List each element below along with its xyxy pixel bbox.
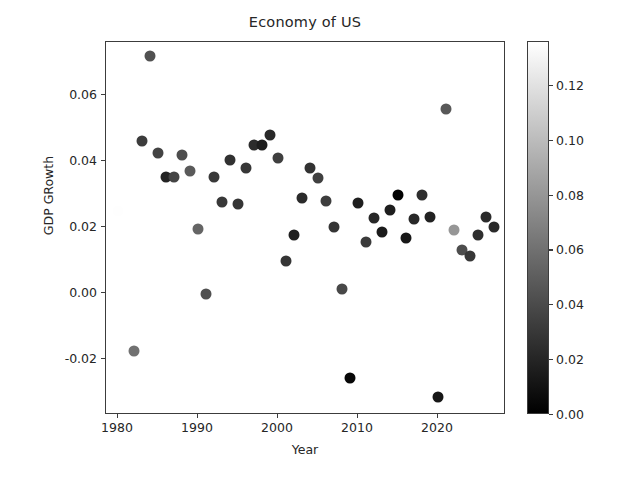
scatter-point [481,211,492,222]
x-axis-tick-label: 2010 [341,420,373,435]
colorbar-gradient [527,41,549,414]
x-axis-tick-mark [357,414,358,418]
scatter-point [425,212,436,223]
x-axis-tick-label: 1980 [101,420,133,435]
scatter-point [193,223,204,234]
scatter-point [321,195,332,206]
x-axis-tick-mark [437,414,438,418]
scatter-point [473,230,484,241]
colorbar-tick-mark [549,359,553,360]
x-axis-tick-mark [197,414,198,418]
scatter-point [113,206,124,217]
colorbar-tick-label: 0.02 [556,352,584,367]
scatter-point [353,198,364,209]
y-axis-tick-mark [101,160,105,161]
colorbar-tick-label: 0.04 [556,297,584,312]
scatter-point [489,222,500,233]
scatter-point [385,204,396,215]
scatter-point [201,288,212,299]
x-axis-tick-mark [117,414,118,418]
x-axis-label: Year [105,442,505,457]
scatter-point [129,346,140,357]
y-axis-tick-mark [101,94,105,95]
scatter-point [361,236,372,247]
colorbar-tick-mark [549,414,553,415]
scatter-point [209,171,220,182]
colorbar-tick-label: 0.06 [556,242,584,257]
scatter-point [393,190,404,201]
scatter-point [257,139,268,150]
colorbar-tick-mark [549,304,553,305]
colorbar-tick-mark [549,195,553,196]
scatter-point [369,212,380,223]
scatter-point [465,251,476,262]
scatter-point [401,232,412,243]
colorbar-tick-mark [549,140,553,141]
scatter-point [417,190,428,201]
x-axis-tick-label: 2000 [261,420,293,435]
y-axis-tick-mark [101,358,105,359]
scatter-point [233,199,244,210]
scatter-point [273,153,284,164]
colorbar: 0.120.100.080.060.040.020.00 [527,41,549,414]
y-axis-tick-mark [101,292,105,293]
colorbar-tick-mark [549,85,553,86]
scatter-point [185,166,196,177]
scatter-point [217,197,228,208]
scatter-point [225,154,236,165]
y-axis-tick-mark [101,226,105,227]
scatter-point [345,373,356,384]
scatter-point [449,225,460,236]
scatter-point [377,227,388,238]
colorbar-tick-mark [549,249,553,250]
y-axis-tick-label: 0.04 [69,152,97,167]
scatter-point [297,193,308,204]
scatter-point [289,230,300,241]
scatter-point [177,149,188,160]
scatter-point [145,50,156,61]
colorbar-tick-label: 0.10 [556,132,584,147]
scatter-point [329,221,340,232]
scatter-plot-area [105,41,505,414]
scatter-point [153,148,164,159]
scatter-point [409,213,420,224]
y-axis-tick-label: -0.02 [65,350,97,365]
y-axis-tick-label: 0.02 [69,218,97,233]
x-axis-tick-label: 2020 [421,420,453,435]
colorbar-tick-label: 0.00 [556,407,584,422]
scatter-point [313,172,324,183]
scatter-point [265,129,276,140]
figure-canvas: Economy of US GDP GRowth 0.060.040.020.0… [0,0,622,479]
scatter-point [281,255,292,266]
scatter-point [137,136,148,147]
y-axis-tick-label: 0.06 [69,86,97,101]
scatter-point [441,104,452,115]
colorbar-tick-label: 0.08 [556,187,584,202]
scatter-point [241,163,252,174]
x-axis-tick-mark [277,414,278,418]
colorbar-tick-label: 0.12 [556,77,584,92]
page-title: Economy of US [105,14,505,30]
scatter-point [305,162,316,173]
scatter-point [433,392,444,403]
y-axis-tick-labels: 0.060.040.020.00-0.02 [0,0,97,479]
y-axis-tick-label: 0.00 [69,284,97,299]
x-axis-tick-label: 1990 [181,420,213,435]
scatter-point [169,172,180,183]
scatter-point [337,283,348,294]
